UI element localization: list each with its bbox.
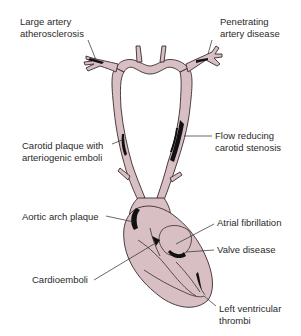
heart — [124, 206, 213, 307]
label-large-artery-atherosclerosis: Large artery atherosclerosis — [20, 16, 84, 39]
label-carotid-plaque: Carotid plaque with arteriogenic emboli — [22, 140, 103, 163]
label-line: Penetrating — [220, 16, 280, 28]
label-line: atherosclerosis — [20, 28, 84, 40]
left-cerebral-branches — [84, 56, 118, 72]
label-line: arteriogenic emboli — [22, 152, 103, 164]
left-carotid-artery — [112, 68, 145, 200]
label-flow-reducing-stenosis: Flow reducing carotid stenosis — [215, 130, 281, 153]
vascular-illustration — [0, 0, 301, 336]
stroke-mechanisms-diagram: Large artery atherosclerosis Penetrating… — [0, 0, 301, 336]
label-line: Flow reducing — [215, 130, 281, 142]
label-line: thrombi — [219, 315, 281, 327]
label-line: Carotid plaque with — [22, 140, 103, 152]
label-penetrating-artery-disease: Penetrating artery disease — [220, 16, 280, 39]
label-line: artery disease — [220, 28, 280, 40]
label-line: Left ventricular — [219, 303, 281, 315]
cerebral-arch — [116, 59, 188, 74]
label-valve-disease: Valve disease — [217, 244, 275, 256]
label-cardioemboli: Cardioemboli — [32, 274, 88, 286]
label-line: Aortic arch plaque — [22, 211, 99, 223]
label-line: Cardioemboli — [32, 274, 88, 286]
label-atrial-fibrillation: Atrial fibrillation — [217, 217, 281, 229]
label-line: Atrial fibrillation — [217, 217, 281, 229]
label-aortic-arch-plaque: Aortic arch plaque — [22, 211, 99, 223]
label-line: Large artery — [20, 16, 84, 28]
label-line: carotid stenosis — [215, 142, 281, 154]
label-line: Valve disease — [217, 244, 275, 256]
label-left-ventricular-thrombi: Left ventricular thrombi — [219, 303, 281, 326]
